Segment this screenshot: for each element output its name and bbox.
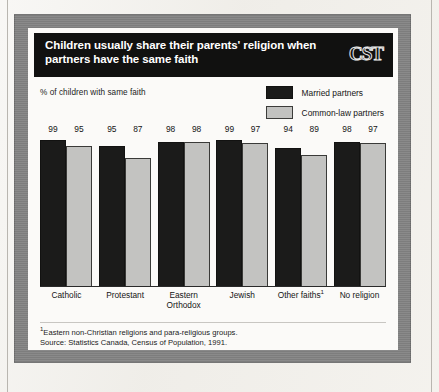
bar <box>125 158 151 287</box>
scanned-page-background: Children usually share their parents' re… <box>0 0 439 392</box>
bar-wrap: 99 <box>40 136 66 287</box>
bar-value-label: 95 <box>66 124 92 134</box>
legend-swatch-married <box>266 86 293 99</box>
bar-group: 9898 <box>158 136 210 287</box>
bar <box>334 142 360 287</box>
figure-title-bar: Children usually share their parents' re… <box>34 33 393 77</box>
category-label: Catholic <box>40 291 93 317</box>
legend-label-common-law: Common-law partners <box>302 108 384 118</box>
bar-wrap: 98 <box>184 136 210 287</box>
bar-group: 9995 <box>40 136 92 287</box>
chart-baseline <box>40 286 386 287</box>
bar <box>40 140 66 287</box>
bar-wrap: 98 <box>334 136 360 287</box>
bar <box>66 146 92 287</box>
bar-wrap: 95 <box>99 136 125 287</box>
bar <box>216 140 242 287</box>
bar-group: 9489 <box>275 136 327 287</box>
bar-wrap: 99 <box>216 136 242 287</box>
legend-swatch-common-law <box>266 106 293 119</box>
axis-note: % of children with same faith <box>40 88 146 97</box>
bar-value-label: 98 <box>184 124 210 134</box>
footnotes: 1Eastern non-Christian religions and par… <box>40 328 386 349</box>
bar-value-label: 98 <box>334 124 360 134</box>
bar-wrap: 98 <box>158 136 184 287</box>
bar <box>242 143 268 287</box>
bar-groups: 999595879898999794899897 <box>40 136 386 287</box>
bar-value-label: 99 <box>40 124 66 134</box>
bar-group: 9997 <box>216 136 268 287</box>
bar-value-label: 99 <box>216 124 242 134</box>
bar-value-label: 87 <box>125 124 151 134</box>
bar-value-label: 89 <box>301 124 327 134</box>
bar-wrap: 97 <box>242 136 268 287</box>
bar <box>275 148 301 287</box>
legend-item-married: Married partners <box>266 86 384 99</box>
figure-frame: Children usually share their parents' re… <box>14 14 411 363</box>
bar-wrap: 89 <box>301 136 327 287</box>
bar-value-label: 95 <box>99 124 125 134</box>
category-label: Eastern Orthodox <box>157 291 210 317</box>
category-label: Jewish <box>216 291 269 317</box>
category-label: No religion <box>333 291 386 317</box>
category-footnote-marker: 1 <box>321 288 324 295</box>
bar-wrap: 95 <box>66 136 92 287</box>
page-rule-right <box>431 0 432 392</box>
bar-group: 9897 <box>334 136 386 287</box>
bar-wrap: 97 <box>360 136 386 287</box>
figure-panel: Children usually share their parents' re… <box>28 28 398 350</box>
bar-wrap: 94 <box>275 136 301 287</box>
chart-legend: Married partners Common-law partners <box>266 86 384 119</box>
footnote-text-1: Eastern non-Christian religions and para… <box>43 328 237 337</box>
legend-label-married: Married partners <box>302 88 363 98</box>
bar-chart-plot: 999595879898999794899897 <box>40 136 386 287</box>
bar-value-label: 97 <box>360 124 386 134</box>
page-rule-left <box>7 0 8 392</box>
bar-wrap: 87 <box>125 136 151 287</box>
footnote-source: Source: Statistics Canada, Census of Pop… <box>40 338 386 348</box>
bar-group: 9587 <box>99 136 151 287</box>
category-label: Other faiths1 <box>274 291 327 317</box>
figure-title: Children usually share their parents' re… <box>45 39 345 66</box>
category-label: Protestant <box>99 291 152 317</box>
bar <box>360 143 386 287</box>
category-axis-labels: CatholicProtestantEastern OrthodoxJewish… <box>40 291 386 317</box>
bar <box>158 142 184 287</box>
bar-value-label: 94 <box>275 124 301 134</box>
bar <box>301 155 327 287</box>
bar-value-label: 97 <box>242 124 268 134</box>
footnote-1: 1Eastern non-Christian religions and par… <box>40 328 386 338</box>
bar <box>184 142 210 287</box>
footnote-text-source: Source: Statistics Canada, Census of Pop… <box>40 338 227 347</box>
bar <box>99 146 125 287</box>
legend-item-common-law: Common-law partners <box>266 106 384 119</box>
bar-value-label: 98 <box>158 124 184 134</box>
cst-logo: CST <box>349 43 383 65</box>
footnote-divider <box>40 322 386 323</box>
